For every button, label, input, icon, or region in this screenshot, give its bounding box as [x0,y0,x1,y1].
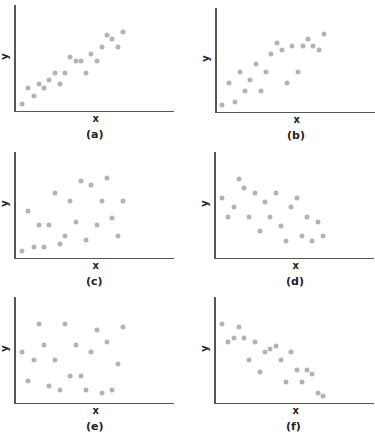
data-point [231,335,236,340]
data-point [20,102,25,107]
data-point [278,357,283,362]
data-point [263,200,268,205]
panel-label-b: (b) [287,129,305,142]
x-axis-line [214,403,374,405]
data-point [257,370,262,375]
y-axis-line [14,152,16,259]
data-point [284,238,289,243]
x-axis-label: x [92,260,98,271]
panel-label-a: (a) [86,128,103,141]
data-point [315,219,320,224]
scatter-plot-d [214,152,374,259]
x-axis-label: x [292,260,298,271]
data-point [300,44,305,49]
data-point [226,214,231,219]
data-point [31,93,36,98]
y-axis-label: y [0,345,10,352]
data-point [20,350,25,355]
data-point [89,350,94,355]
data-point [268,347,273,352]
data-point [52,190,57,195]
data-point [299,233,304,238]
data-point [220,195,225,200]
y-axis-line [14,5,16,112]
data-point [284,379,289,384]
data-point [26,85,31,90]
y-axis-line [214,152,216,259]
data-point [36,82,41,87]
data-point [63,233,68,238]
panel-label-c: (c) [86,275,103,288]
data-point [57,82,62,87]
data-point [36,223,41,228]
data-point [274,40,279,45]
data-point [252,190,257,195]
data-point [47,223,52,228]
data-point [264,69,269,74]
x-axis-line [14,258,174,260]
data-point [42,245,47,250]
data-point [68,198,73,203]
data-point [26,209,31,214]
scatter-plot-c [14,152,174,259]
x-axis-label: x [292,405,298,416]
data-point [115,233,120,238]
data-point [31,357,36,362]
y-axis-label: y [200,55,211,62]
data-point [247,357,252,362]
data-point [57,241,62,246]
data-point [316,48,321,53]
data-point [110,387,115,392]
data-point [247,214,252,219]
data-point [120,29,125,34]
x-axis-line [14,111,174,113]
data-point [94,223,99,228]
data-point [289,350,294,355]
data-point [20,249,25,254]
data-point [310,372,315,377]
data-point [89,183,94,188]
data-point [42,85,47,90]
data-point [315,391,320,396]
data-point [220,103,225,108]
data-point [110,37,115,42]
data-point [73,219,78,224]
data-point [84,70,89,75]
data-point [73,59,78,64]
y-axis-line [214,297,216,404]
data-point [305,214,310,219]
data-point [290,44,295,49]
data-point [236,176,241,181]
data-point [242,335,247,340]
data-point [31,245,36,250]
data-point [115,44,120,49]
data-point [94,328,99,333]
panel-label-e: (e) [86,420,104,433]
data-point [273,343,278,348]
data-point [248,77,253,82]
scatter-plot-b [215,8,375,113]
data-point [84,237,89,242]
scatter-plot-e [14,297,174,404]
data-point [289,205,294,210]
data-point [253,62,258,67]
scatter-plot-a [14,5,174,112]
scatter-plot-f [214,297,374,404]
data-point [278,224,283,229]
data-point [263,350,268,355]
data-point [257,229,262,234]
data-point [305,368,310,373]
data-point [42,342,47,347]
data-point [63,321,68,326]
data-point [285,80,290,85]
data-point [99,44,104,49]
data-point [226,339,231,344]
y-axis-label: y [199,200,210,207]
data-point [120,325,125,330]
data-point [269,51,274,56]
y-axis-line [14,297,16,404]
panel-label-d: (d) [286,275,304,288]
data-point [231,205,236,210]
data-point [99,198,104,203]
x-axis-label: x [293,114,299,125]
